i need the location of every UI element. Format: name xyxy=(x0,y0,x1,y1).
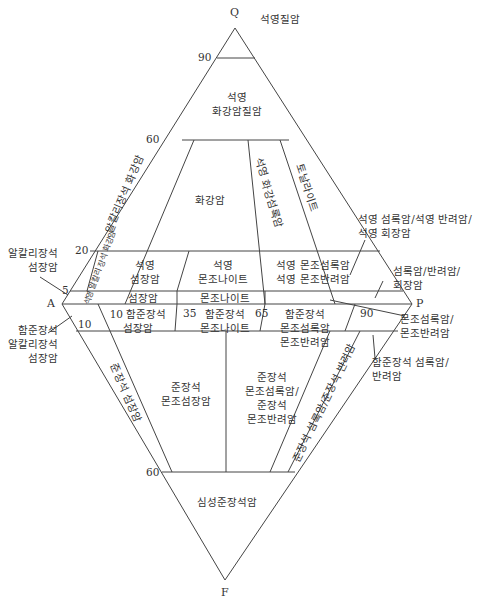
field-granite: 화강암 xyxy=(180,193,240,207)
callout-diorite: 섬록암/반려암/회장암 xyxy=(393,264,460,292)
callout-alk-syenite: 알칼리장석섬장암 xyxy=(0,246,58,274)
tick-q60: 60 xyxy=(146,133,159,145)
tick-q5: 5 xyxy=(62,284,69,296)
vertex-q: Q xyxy=(230,6,239,19)
field-quartz-granitoid: 석영화강암질암 xyxy=(187,90,287,118)
field-quartz-syenite: 석영섬장암 xyxy=(115,258,175,286)
vertex-f: F xyxy=(221,586,229,599)
field-foid-monzodiorite: 함준장석몬조섬록암몬조반려암 xyxy=(270,307,340,349)
callout-qtz-diorite: 석영 섬록암/석영 반려암/석영 회장암 xyxy=(358,212,472,240)
field-foid-monzodiorite-lower: 준장석몬조섬록암/준장석몬조반려암 xyxy=(232,370,312,426)
field-monzonite: 몬조나이트 xyxy=(185,291,265,305)
tick-f90: 90 xyxy=(360,307,373,319)
tick-f10-left: 10 xyxy=(78,318,91,330)
field-qtz-monzodiorite: 석영 몬조섬록암석영 몬조반려암 xyxy=(268,258,358,286)
tick-q90: 90 xyxy=(198,51,211,63)
field-foid-monzosyenite: 준장석몬조섬장암 xyxy=(148,380,224,408)
tick-f60: 60 xyxy=(146,466,159,478)
field-foidolite: 심성준장석암 xyxy=(187,495,267,509)
field-quartz-monzonite: 석영몬조나이트 xyxy=(183,258,263,286)
tick-q20: 20 xyxy=(75,244,88,256)
tick-f65: 65 xyxy=(255,307,268,319)
field-quartzolite: 석영질암 xyxy=(260,12,300,26)
field-foid-monzonite: 함준장석몬조나이트 xyxy=(195,307,255,335)
vertex-p: P xyxy=(416,297,423,310)
callout-foid-alk-syenite: 함준장석알칼리장석섬장암 xyxy=(0,323,58,365)
field-syenite: 섬장암 xyxy=(113,291,173,305)
vertex-a: A xyxy=(47,297,55,310)
field-foid-syenite: 10 함준장석섬장암 xyxy=(100,307,176,335)
callout-monzodiorite: 몬조섬록암/몬조반려암 xyxy=(400,312,454,340)
callout-foid-diorite: 함준장석 섬록암/반려암 xyxy=(372,355,449,383)
